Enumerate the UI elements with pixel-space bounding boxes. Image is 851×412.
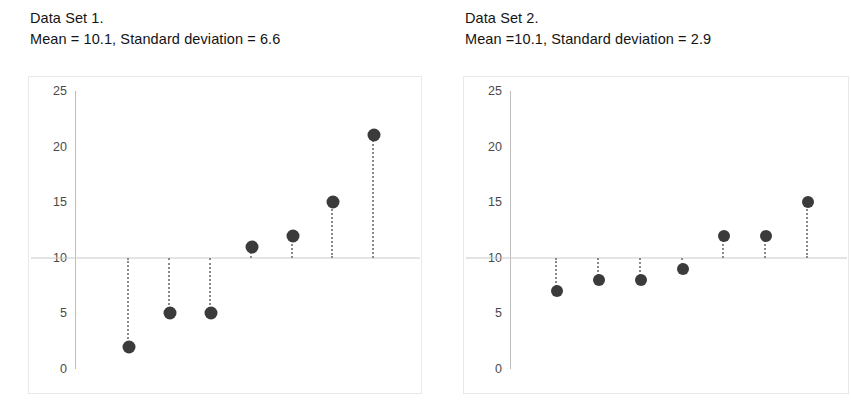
y-axis-tick-label: 5 <box>495 306 502 320</box>
chart-subtitle-dataset-1: Mean = 10.1, Standard deviation = 6.6 <box>30 29 280 50</box>
plot-area-dataset-1: 0510152025 <box>75 91 415 369</box>
y-axis-tick-label: 15 <box>53 195 67 209</box>
y-axis-tick-label: 25 <box>53 84 67 98</box>
figure-container: Data Set 1. Mean = 10.1, Standard deviat… <box>0 0 851 412</box>
data-point-stem <box>209 258 213 314</box>
chart-subtitle-dataset-2: Mean =10.1, Standard deviation = 2.9 <box>465 29 711 50</box>
data-point-marker <box>205 307 218 320</box>
y-axis-tick-label: 25 <box>488 84 502 98</box>
data-point-marker <box>718 230 730 242</box>
plot-frame-dataset-1: 0510152025 <box>28 76 422 394</box>
data-point-marker <box>123 340 136 353</box>
y-axis-line-dataset-2 <box>510 91 511 369</box>
data-point-marker <box>368 129 381 142</box>
y-axis-tick-label: 0 <box>60 362 67 376</box>
data-point-marker <box>551 285 563 297</box>
data-point-marker <box>593 274 605 286</box>
y-axis-tick-label: 20 <box>488 140 502 154</box>
y-axis-tick-label: 20 <box>53 140 67 154</box>
mean-reference-line <box>466 257 847 258</box>
y-axis-line-dataset-1 <box>75 91 76 369</box>
plot-frame-dataset-2: 0510152025 <box>463 76 849 394</box>
y-axis-tick-label: 15 <box>488 195 502 209</box>
data-point-marker <box>327 196 340 209</box>
data-point-stem <box>372 135 376 257</box>
mean-reference-line <box>31 257 420 258</box>
data-point-marker <box>164 307 177 320</box>
chart-caption-dataset-1: Data Set 1. Mean = 10.1, Standard deviat… <box>30 8 280 50</box>
chart-panel-dataset-1: Data Set 1. Mean = 10.1, Standard deviat… <box>28 0 424 412</box>
plot-area-dataset-2: 0510152025 <box>510 91 842 369</box>
chart-title-dataset-1: Data Set 1. <box>30 8 280 29</box>
chart-panel-dataset-2: Data Set 2. Mean =10.1, Standard deviati… <box>463 0 851 412</box>
data-point-marker <box>245 240 258 253</box>
y-axis-tick-label: 5 <box>60 306 67 320</box>
data-point-marker <box>635 274 647 286</box>
data-point-stem <box>127 258 131 347</box>
y-axis-tick-label: 0 <box>495 362 502 376</box>
data-point-marker <box>677 263 689 275</box>
data-point-marker <box>760 230 772 242</box>
data-point-stem <box>168 258 172 314</box>
chart-caption-dataset-2: Data Set 2. Mean =10.1, Standard deviati… <box>465 8 711 50</box>
data-point-marker <box>286 229 299 242</box>
chart-title-dataset-2: Data Set 2. <box>465 8 711 29</box>
data-point-stem <box>331 202 335 258</box>
data-point-stem <box>806 202 810 258</box>
data-point-marker <box>802 196 814 208</box>
